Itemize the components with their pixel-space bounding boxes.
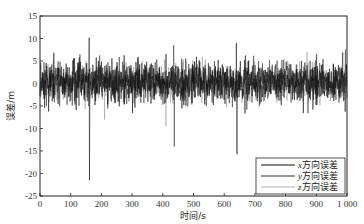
x-tick-label: 900 (310, 199, 324, 209)
x-tick-label: 800 (279, 199, 293, 209)
legend-label-y: y方向误差 (297, 170, 338, 181)
x-tick-label: 300 (125, 199, 139, 209)
y-tick-label: -25 (25, 191, 37, 201)
y-tick-label: -20 (25, 169, 37, 179)
x-tick-label: 0 (38, 199, 43, 209)
y-tick-label: 5 (33, 56, 38, 66)
error-time-series-chart: 151050-5-10-15-20-25 0100200300400500600… (0, 0, 364, 224)
legend-label-x: x方向误差 (297, 159, 338, 170)
x-tick-label: 600 (217, 199, 231, 209)
x-axis-title: 时间/s (180, 210, 206, 221)
legend: x方向误差 y方向误差 z方向误差 (256, 158, 345, 194)
y-tick-label: -5 (30, 101, 38, 111)
x-axis-ticks: 01002003004005006007008009001 000 (38, 193, 358, 209)
x-tick-label: 400 (156, 199, 170, 209)
y-tick-label: 0 (33, 79, 38, 89)
x-tick-label: 1 000 (337, 199, 358, 209)
x-tick-label: 200 (95, 199, 109, 209)
y-tick-label: 10 (28, 34, 38, 44)
y-axis-title: 误差/m (5, 91, 16, 121)
y-tick-label: 15 (28, 11, 38, 21)
legend-label-z: z方向误差 (297, 181, 338, 192)
x-tick-label: 100 (64, 199, 78, 209)
x-tick-label: 700 (248, 199, 262, 209)
x-tick-label: 500 (187, 199, 201, 209)
y-tick-label: -10 (25, 124, 37, 134)
y-tick-label: -15 (25, 146, 37, 156)
